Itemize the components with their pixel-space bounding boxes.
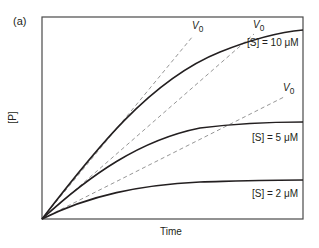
panel-label: (a): [13, 15, 26, 27]
v0-symbol: V: [253, 19, 260, 30]
series-label-10uM: [S] = 10 μM: [247, 37, 299, 48]
v0-symbol: V: [192, 20, 199, 31]
series-label-5uM: [S] = 5 μM: [252, 132, 298, 143]
v0-annotation-3: V0: [283, 82, 294, 96]
y-axis-label: [P]: [7, 106, 18, 130]
v0-annotation-1: V0: [192, 20, 203, 34]
v0-subscript: 0: [260, 23, 265, 33]
v0-line-2uM: [42, 97, 284, 219]
v0-annotation-2: V0: [253, 19, 264, 33]
v0-subscript: 0: [290, 86, 295, 96]
x-axis-label: Time: [160, 226, 182, 237]
v0-symbol: V: [283, 82, 290, 93]
series-label-2uM: [S] = 2 μM: [252, 188, 298, 199]
v0-subscript: 0: [199, 24, 204, 34]
